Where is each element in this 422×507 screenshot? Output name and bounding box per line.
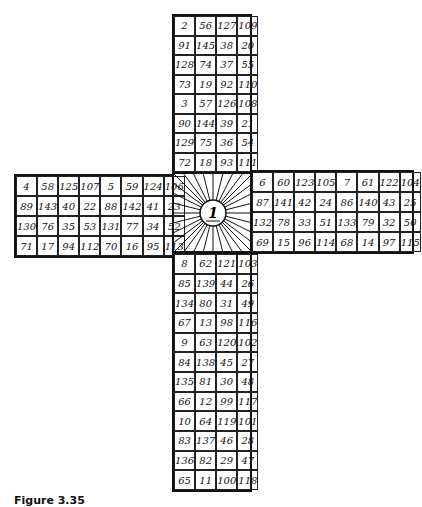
grid-cell: 86 [336,192,357,212]
grid-cell: 26 [237,274,258,294]
bottom-arm-grid: 8621211038513944261348031496713981169631… [172,252,252,492]
center-square: 1 [172,172,252,252]
grid-cell: 35 [58,216,79,236]
grid-cell: 79 [357,212,378,232]
grid-cell: 7 [336,172,357,192]
grid-cell: 64 [195,411,216,431]
grid-cell: 108 [237,94,258,114]
grid-cell: 54 [237,133,258,153]
center-label: 1 [208,205,218,221]
grid-cell: 85 [174,274,195,294]
grid-cell: 78 [273,212,294,232]
grid-cell: 109 [237,16,258,36]
grid-cell: 18 [195,153,216,173]
grid-cell: 69 [252,232,273,252]
grid-cell: 28 [237,431,258,451]
grid-cell: 138 [195,352,216,372]
grid-cell: 37 [216,55,237,75]
grid-cell: 41 [143,196,164,216]
grid-cell: 40 [58,196,79,216]
grid-cell: 3 [174,94,195,114]
grid-cell: 103 [237,254,258,274]
grid-cell: 70 [100,236,121,256]
grid-cell: 14 [357,232,378,252]
grid-cell: 15 [273,232,294,252]
grid-cell: 51 [315,212,336,232]
grid-cell: 84 [174,352,195,372]
grid-cell: 30 [216,372,237,392]
grid-cell: 129 [174,133,195,153]
grid-cell: 42 [294,192,315,212]
grid-cell: 126 [216,94,237,114]
grid-cell: 59 [121,176,142,196]
grid-cell: 8 [174,254,195,274]
grid-cell: 118 [237,470,258,490]
grid-cell: 96 [294,232,315,252]
grid-cell: 123 [294,172,315,192]
grid-cell: 49 [237,293,258,313]
grid-cell: 80 [195,293,216,313]
grid-cell: 136 [174,451,195,471]
grid-cell: 43 [379,192,400,212]
grid-cell: 61 [357,172,378,192]
figure-caption: Figure 3.35 [14,494,85,507]
grid-cell: 46 [216,431,237,451]
grid-cell: 115 [400,232,421,252]
top-arm-grid: 2561271099114538201287437557319921103571… [172,14,252,174]
grid-cell: 83 [174,431,195,451]
grid-cell: 97 [379,232,400,252]
grid-cell: 90 [174,114,195,134]
grid-cell: 25 [400,192,421,212]
grid-cell: 48 [237,372,258,392]
grid-cell: 101 [237,411,258,431]
grid-cell: 13 [195,313,216,333]
grid-cell: 112 [79,236,100,256]
grid-cell: 87 [252,192,273,212]
grid-cell: 100 [216,470,237,490]
grid-cell: 122 [379,172,400,192]
grid-cell: 81 [195,372,216,392]
grid-cell: 125 [58,176,79,196]
grid-cell: 4 [16,176,37,196]
grid-cell: 135 [174,372,195,392]
grid-cell: 91 [174,36,195,56]
grid-cell: 107 [79,176,100,196]
grid-cell: 131 [100,216,121,236]
grid-cell: 93 [216,153,237,173]
grid-cell: 27 [237,352,258,372]
grid-cell: 10 [174,411,195,431]
grid-cell: 65 [174,470,195,490]
grid-cell: 67 [174,313,195,333]
grid-cell: 9 [174,333,195,353]
grid-cell: 105 [315,172,336,192]
grid-cell: 66 [174,392,195,412]
grid-cell: 34 [143,216,164,236]
grid-cell: 62 [195,254,216,274]
grid-cell: 124 [143,176,164,196]
grid-cell: 110 [237,75,258,95]
grid-cell: 57 [195,94,216,114]
grid-cell: 33 [294,212,315,232]
grid-cell: 143 [37,196,58,216]
grid-cell: 76 [37,216,58,236]
grid-cell: 24 [315,192,336,212]
grid-cell: 22 [79,196,100,216]
grid-cell: 144 [195,114,216,134]
grid-cell: 45 [216,352,237,372]
grid-cell: 19 [195,75,216,95]
left-arm-grid: 4581251075591241068914340228814241231307… [14,174,174,258]
grid-cell: 114 [315,232,336,252]
grid-cell: 50 [400,212,421,232]
grid-cell: 140 [357,192,378,212]
grid-cell: 29 [216,451,237,471]
grid-cell: 132 [252,212,273,232]
grid-cell: 31 [216,293,237,313]
grid-cell: 119 [216,411,237,431]
grid-cell: 94 [58,236,79,256]
grid-cell: 104 [400,172,421,192]
grid-cell: 82 [195,451,216,471]
grid-cell: 16 [121,236,142,256]
sunburst-icon: 1 [173,173,253,253]
grid-cell: 38 [216,36,237,56]
grid-cell: 134 [174,293,195,313]
